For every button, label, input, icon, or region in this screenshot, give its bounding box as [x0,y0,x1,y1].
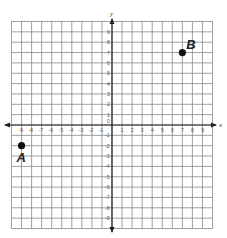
y-tick-label: -5 [105,174,110,180]
y-axis-arrow-down [110,227,115,233]
y-tick-label: -7 [105,194,110,200]
x-tick-label: -6 [49,127,54,133]
x-tick-label: 5 [161,127,164,133]
y-tick-label: -4 [105,163,110,169]
x-tick-label: 2 [131,127,134,133]
point-label-b: B [186,37,195,52]
y-tick-label: 1 [107,112,110,118]
x-tick-label: 8 [191,127,194,133]
point-label-a: A [16,150,26,165]
y-axis-arrow-up [110,18,115,24]
x-tick-label: 6 [171,127,174,133]
x-tick-label: 4 [151,127,154,133]
x-tick-label: -4 [69,127,74,133]
y-tick-label: -6 [105,184,110,190]
x-tick-label: -3 [79,127,84,133]
y-tick-label: 2 [107,101,110,107]
y-tick-label: -2 [105,143,110,149]
point-b [179,49,186,56]
y-tick-label: 7 [107,50,110,56]
point-a [18,142,25,149]
x-axis-arrow-left [4,123,10,128]
y-tick-label: -9 [105,215,110,221]
x-tick-label: 9 [201,127,204,133]
y-tick-label: 9 [107,29,110,35]
y-axis-label: y [109,10,114,18]
origin-label: 0 [107,118,110,124]
x-tick-label: -7 [39,127,44,133]
x-tick-label: 7 [181,127,184,133]
y-tick-label: 5 [107,70,110,76]
x-axis-arrow-right [211,123,217,128]
y-tick-label: -1 [105,132,110,138]
x-tick-label: -8 [29,127,34,133]
x-tick-label: 1 [121,127,124,133]
x-tick-label: -5 [59,127,64,133]
y-tick-label: 6 [107,60,110,66]
x-tick-label: -9 [19,127,24,133]
x-tick-label: -1 [99,127,104,133]
y-tick-label: 8 [107,39,110,45]
x-tick-label: 3 [141,127,144,133]
y-tick-label: 3 [107,91,110,97]
x-tick-label: -2 [89,127,94,133]
y-tick-label: 4 [107,81,110,87]
y-tick-label: -3 [105,153,110,159]
y-tick-label: -8 [105,205,110,211]
coordinate-plane: x y 0 -9-8-7-6-5-4-3-2-11234567899876543… [0,0,227,238]
x-axis-label: x [218,121,223,129]
